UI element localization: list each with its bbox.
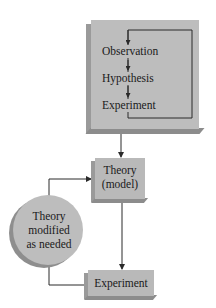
step-observation: Observation xyxy=(101,45,159,58)
step-hypothesis: Hypothesis xyxy=(101,72,155,85)
modify-label-line1: Theory xyxy=(16,210,82,223)
experiment-label: Experiment xyxy=(88,277,154,290)
modify-label-line3: as needed xyxy=(16,238,82,251)
modify-label-line2: modified xyxy=(16,224,82,237)
theory-label-line2: (model) xyxy=(95,178,145,191)
theory-label-line1: Theory xyxy=(95,164,145,177)
step-experiment: Experiment xyxy=(101,99,157,112)
